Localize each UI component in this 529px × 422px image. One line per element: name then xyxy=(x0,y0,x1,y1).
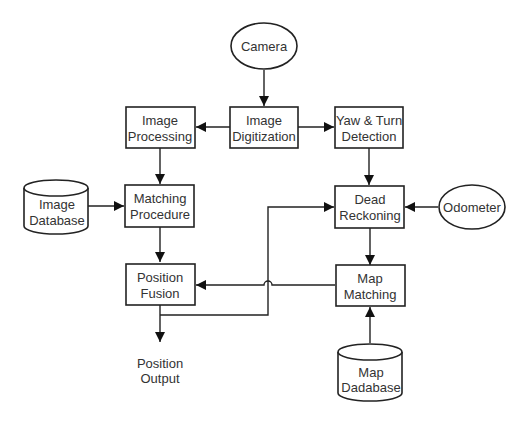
edge-mapmatching-to-fusion xyxy=(196,281,335,285)
node-position-fusion: Position Fusion xyxy=(126,264,195,305)
node-image-digitization: Image Digitization xyxy=(230,107,298,148)
node-image-processing: Image Processing xyxy=(126,107,195,148)
node-matching-procedure-label-1: Matching xyxy=(134,191,187,206)
node-camera-label: Camera xyxy=(241,39,288,54)
node-image-database: Image Database xyxy=(24,180,88,234)
node-map-matching-label-2: Matching xyxy=(344,287,397,302)
node-map-database: Map Dadabase xyxy=(338,344,402,401)
node-image-processing-label-2: Processing xyxy=(128,129,192,144)
node-map-matching-label-1: Map xyxy=(357,271,382,286)
node-odometer-label: Odometer xyxy=(443,200,501,215)
node-image-database-label-2: Database xyxy=(29,213,85,228)
node-matching-procedure: Matching Procedure xyxy=(125,185,194,227)
navigation-block-diagram: Camera Image Digitization Image Processi… xyxy=(0,0,529,422)
node-camera: Camera xyxy=(231,23,297,69)
node-image-digitization-label-2: Digitization xyxy=(232,129,296,144)
node-matching-procedure-label-2: Procedure xyxy=(130,207,190,222)
node-dead-reckoning: Dead Reckoning xyxy=(335,186,404,228)
node-yaw-turn-detection: Yaw & Turn Detection xyxy=(335,107,403,148)
node-map-database-label-2: Dadabase xyxy=(341,380,400,395)
node-image-digitization-label-1: Image xyxy=(246,113,282,128)
node-odometer: Odometer xyxy=(439,185,505,229)
node-position-output-label-2: Output xyxy=(140,371,179,386)
node-position-fusion-label-2: Fusion xyxy=(140,286,179,301)
node-position-output-label-1: Position xyxy=(137,356,183,371)
node-dead-reckoning-label-2: Reckoning xyxy=(339,208,400,223)
node-map-database-label-1: Map xyxy=(358,365,383,380)
node-dead-reckoning-label-1: Dead xyxy=(354,192,385,207)
node-image-database-label-1: Image xyxy=(39,197,75,212)
node-position-fusion-label-1: Position xyxy=(137,270,183,285)
node-yaw-turn-detection-label-2: Detection xyxy=(342,129,397,144)
node-image-processing-label-1: Image xyxy=(142,113,178,128)
node-yaw-turn-detection-label-1: Yaw & Turn xyxy=(336,113,402,128)
node-map-matching: Map Matching xyxy=(336,265,405,306)
node-position-output: Position Output xyxy=(137,356,183,386)
